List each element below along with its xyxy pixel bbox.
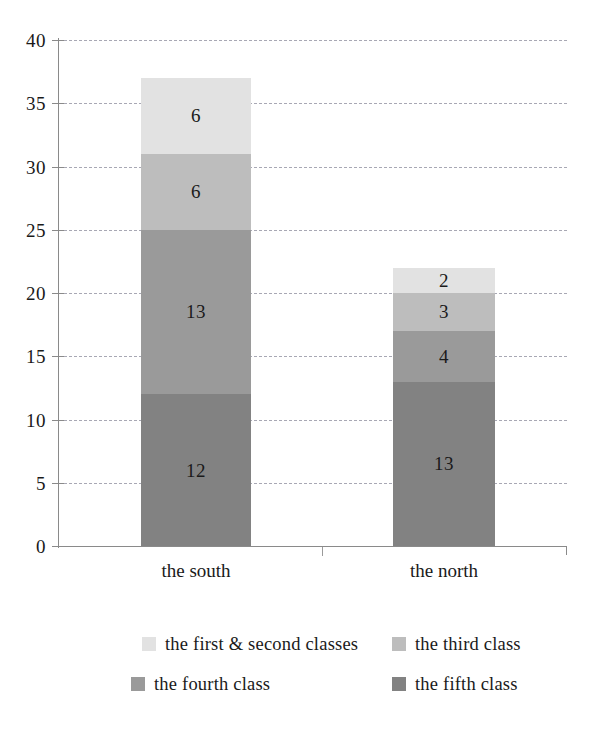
bar-segment-south-fourth[interactable]: 13 bbox=[141, 230, 251, 394]
chart-legend: the first & second classes the third cla… bbox=[0, 626, 598, 706]
x-axis-end-tick bbox=[566, 546, 567, 555]
y-axis-label-25: 25 bbox=[26, 221, 46, 240]
y-axis-label-5: 5 bbox=[36, 474, 46, 493]
legend-swatch-icon bbox=[392, 637, 406, 651]
legend-label: the fourth class bbox=[154, 674, 270, 694]
bars-group: 6 6 13 12 2 3 bbox=[58, 40, 567, 546]
legend-item-first-second-classes[interactable]: the first & second classes bbox=[142, 634, 358, 654]
bar-the-north[interactable]: 2 3 4 13 bbox=[393, 268, 495, 546]
bar-value-label: 3 bbox=[439, 302, 449, 321]
y-axis-label-20: 20 bbox=[26, 284, 46, 303]
y-tick-0 bbox=[52, 546, 64, 547]
bar-segment-south-third[interactable]: 6 bbox=[141, 154, 251, 230]
plot-area: 6 6 13 12 2 3 bbox=[58, 40, 567, 546]
y-axis-label-35: 35 bbox=[26, 94, 46, 113]
x-axis-category-divider-tick bbox=[322, 547, 323, 556]
bar-segment-south-first-second[interactable]: 6 bbox=[141, 78, 251, 154]
y-axis-label-30: 30 bbox=[26, 158, 46, 177]
bar-segment-north-fifth[interactable]: 13 bbox=[393, 382, 495, 546]
y-axis-label-0: 0 bbox=[36, 537, 46, 556]
bar-value-label: 4 bbox=[439, 347, 449, 366]
category-label-the-north: the north bbox=[384, 560, 504, 582]
legend-label: the first & second classes bbox=[165, 634, 358, 654]
bar-value-label: 13 bbox=[186, 302, 206, 321]
bar-segment-north-first-second[interactable]: 2 bbox=[393, 268, 495, 293]
legend-item-third-class[interactable]: the third class bbox=[392, 634, 521, 654]
y-axis-label-10: 10 bbox=[26, 411, 46, 430]
bar-segment-north-third[interactable]: 3 bbox=[393, 293, 495, 331]
stacked-bar-chart: 40 35 30 25 20 15 10 5 0 6 6 13 12 bbox=[0, 0, 598, 730]
legend-item-fifth-class[interactable]: the fifth class bbox=[392, 674, 518, 694]
bar-segment-north-fourth[interactable]: 4 bbox=[393, 331, 495, 382]
y-axis-label-40: 40 bbox=[26, 31, 46, 50]
bar-segment-south-fifth[interactable]: 12 bbox=[141, 394, 251, 546]
x-axis-line bbox=[58, 546, 567, 547]
category-label-the-south: the south bbox=[136, 560, 256, 582]
y-axis-label-15: 15 bbox=[26, 347, 46, 366]
bar-the-south[interactable]: 6 6 13 12 bbox=[141, 78, 251, 546]
bar-value-label: 2 bbox=[439, 271, 449, 290]
bar-value-label: 6 bbox=[191, 182, 201, 201]
legend-swatch-icon bbox=[131, 677, 145, 691]
legend-swatch-icon bbox=[142, 637, 156, 651]
bar-value-label: 13 bbox=[434, 454, 454, 473]
bar-value-label: 6 bbox=[191, 106, 201, 125]
legend-swatch-icon bbox=[392, 677, 406, 691]
legend-item-fourth-class[interactable]: the fourth class bbox=[131, 674, 270, 694]
bar-value-label: 12 bbox=[186, 461, 206, 480]
legend-label: the fifth class bbox=[415, 674, 518, 694]
legend-label: the third class bbox=[415, 634, 521, 654]
